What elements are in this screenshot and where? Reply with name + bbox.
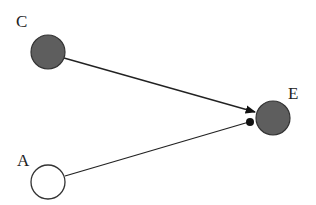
node-a-label: A [17, 151, 30, 170]
diagram-canvas: C E A [0, 0, 316, 205]
node-c-label: C [16, 12, 27, 31]
node-e-label: E [288, 84, 298, 103]
node-a [31, 165, 65, 199]
node-c [31, 35, 65, 69]
edge-a-to-e-dot-head [246, 118, 254, 126]
edge-c-to-e [64, 58, 255, 112]
edge-a-to-e [65, 122, 249, 176]
node-e [256, 101, 290, 135]
